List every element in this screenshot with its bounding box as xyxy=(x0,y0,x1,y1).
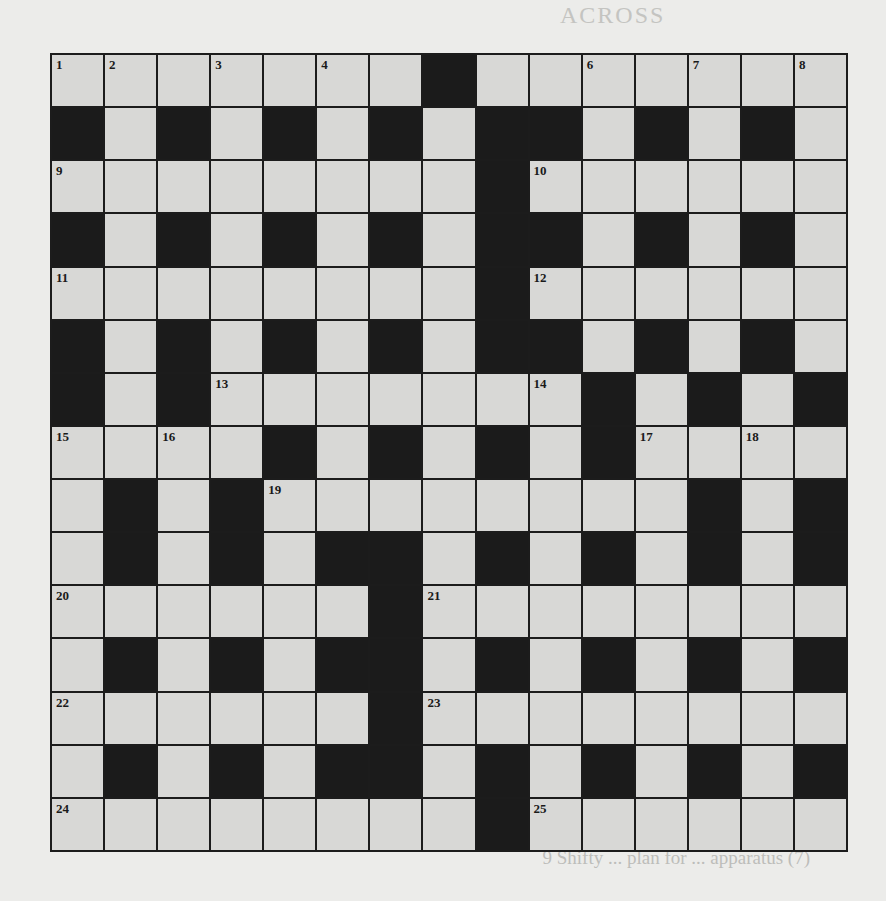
grid-cell[interactable] xyxy=(317,108,368,159)
grid-cell[interactable]: 25 xyxy=(530,799,581,850)
grid-cell[interactable] xyxy=(211,427,262,478)
grid-cell[interactable] xyxy=(158,55,209,106)
grid-cell[interactable] xyxy=(636,480,687,531)
grid-cell[interactable] xyxy=(795,427,846,478)
grid-cell[interactable] xyxy=(477,693,528,744)
grid-cell[interactable] xyxy=(583,321,634,372)
grid-cell[interactable]: 17 xyxy=(636,427,687,478)
grid-cell[interactable] xyxy=(211,108,262,159)
grid-cell[interactable] xyxy=(264,374,315,425)
grid-cell[interactable] xyxy=(477,586,528,637)
grid-cell[interactable]: 12 xyxy=(530,268,581,319)
grid-cell[interactable] xyxy=(264,586,315,637)
grid-cell[interactable] xyxy=(530,586,581,637)
grid-cell[interactable] xyxy=(689,321,740,372)
grid-cell[interactable] xyxy=(530,693,581,744)
grid-cell[interactable] xyxy=(370,799,421,850)
grid-cell[interactable] xyxy=(317,799,368,850)
grid-cell[interactable] xyxy=(423,108,474,159)
grid-cell[interactable] xyxy=(795,161,846,212)
grid-cell[interactable] xyxy=(105,161,156,212)
grid-cell[interactable] xyxy=(370,374,421,425)
grid-cell[interactable] xyxy=(689,427,740,478)
grid-cell[interactable] xyxy=(264,799,315,850)
grid-cell[interactable] xyxy=(105,586,156,637)
grid-cell[interactable] xyxy=(317,374,368,425)
grid-cell[interactable] xyxy=(264,533,315,584)
grid-cell[interactable] xyxy=(317,268,368,319)
grid-cell[interactable] xyxy=(423,639,474,690)
grid-cell[interactable] xyxy=(158,639,209,690)
grid-cell[interactable]: 15 xyxy=(52,427,103,478)
grid-cell[interactable] xyxy=(264,55,315,106)
grid-cell[interactable]: 6 xyxy=(583,55,634,106)
grid-cell[interactable] xyxy=(742,480,793,531)
grid-cell[interactable] xyxy=(370,55,421,106)
grid-cell[interactable] xyxy=(317,214,368,265)
grid-cell[interactable] xyxy=(742,268,793,319)
grid-cell[interactable] xyxy=(689,799,740,850)
grid-cell[interactable] xyxy=(264,746,315,797)
grid-cell[interactable] xyxy=(423,427,474,478)
grid-cell[interactable] xyxy=(742,374,793,425)
grid-cell[interactable] xyxy=(477,480,528,531)
grid-cell[interactable] xyxy=(477,55,528,106)
grid-cell[interactable] xyxy=(583,214,634,265)
grid-cell[interactable] xyxy=(742,746,793,797)
grid-cell[interactable]: 2 xyxy=(105,55,156,106)
grid-cell[interactable]: 9 xyxy=(52,161,103,212)
grid-cell[interactable] xyxy=(689,161,740,212)
grid-cell[interactable]: 20 xyxy=(52,586,103,637)
grid-cell[interactable] xyxy=(264,161,315,212)
grid-cell[interactable] xyxy=(742,799,793,850)
grid-cell[interactable] xyxy=(530,746,581,797)
grid-cell[interactable]: 22 xyxy=(52,693,103,744)
grid-cell[interactable] xyxy=(530,427,581,478)
grid-cell[interactable] xyxy=(742,586,793,637)
grid-cell[interactable] xyxy=(158,746,209,797)
grid-cell[interactable]: 1 xyxy=(52,55,103,106)
grid-cell[interactable] xyxy=(795,321,846,372)
grid-cell[interactable] xyxy=(105,374,156,425)
grid-cell[interactable] xyxy=(105,268,156,319)
grid-cell[interactable] xyxy=(583,799,634,850)
grid-cell[interactable] xyxy=(423,533,474,584)
grid-cell[interactable] xyxy=(317,427,368,478)
grid-cell[interactable] xyxy=(583,161,634,212)
grid-cell[interactable] xyxy=(211,214,262,265)
grid-cell[interactable] xyxy=(211,161,262,212)
grid-cell[interactable] xyxy=(317,321,368,372)
grid-cell[interactable] xyxy=(583,693,634,744)
grid-cell[interactable] xyxy=(158,161,209,212)
grid-cell[interactable] xyxy=(317,693,368,744)
grid-cell[interactable] xyxy=(158,533,209,584)
grid-cell[interactable] xyxy=(636,746,687,797)
grid-cell[interactable]: 24 xyxy=(52,799,103,850)
grid-cell[interactable]: 4 xyxy=(317,55,368,106)
grid-cell[interactable] xyxy=(689,214,740,265)
grid-cell[interactable] xyxy=(742,55,793,106)
grid-cell[interactable] xyxy=(52,480,103,531)
grid-cell[interactable] xyxy=(795,586,846,637)
grid-cell[interactable] xyxy=(742,639,793,690)
grid-cell[interactable] xyxy=(636,55,687,106)
grid-cell[interactable]: 7 xyxy=(689,55,740,106)
grid-cell[interactable] xyxy=(370,480,421,531)
grid-cell[interactable] xyxy=(158,799,209,850)
grid-cell[interactable] xyxy=(530,55,581,106)
grid-cell[interactable] xyxy=(636,533,687,584)
grid-cell[interactable] xyxy=(423,799,474,850)
grid-cell[interactable] xyxy=(689,268,740,319)
grid-cell[interactable] xyxy=(370,161,421,212)
grid-cell[interactable] xyxy=(52,533,103,584)
grid-cell[interactable] xyxy=(689,586,740,637)
grid-cell[interactable] xyxy=(211,268,262,319)
grid-cell[interactable] xyxy=(636,161,687,212)
grid-cell[interactable] xyxy=(423,374,474,425)
grid-cell[interactable]: 10 xyxy=(530,161,581,212)
grid-cell[interactable] xyxy=(530,480,581,531)
grid-cell[interactable] xyxy=(477,374,528,425)
grid-cell[interactable] xyxy=(583,480,634,531)
grid-cell[interactable] xyxy=(370,268,421,319)
grid-cell[interactable] xyxy=(423,161,474,212)
